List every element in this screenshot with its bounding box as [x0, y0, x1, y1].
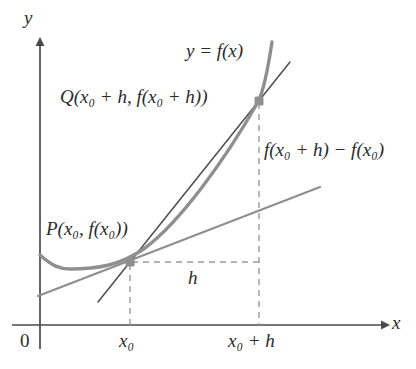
point-marker-p	[126, 258, 135, 267]
axes-group	[12, 37, 390, 349]
point-p-label: P(x₀, f(x₀))	[46, 219, 128, 238]
function-curve-label: y = f(x)	[186, 41, 243, 60]
origin-label: 0	[20, 331, 30, 350]
derivative-secant-tangent-figure: y x 0 y = f(x) Q(x₀ + h, f(x₀ + h)) P(x₀…	[0, 0, 416, 369]
run-label: h	[188, 268, 198, 287]
tangent-line	[38, 187, 320, 296]
y-axis-label: y	[24, 8, 32, 27]
x-tick-label-x0: x₀	[119, 331, 134, 350]
x-axis-arrowhead	[381, 321, 390, 330]
x-tick-label-x0-plus-h: x₀ + h	[228, 331, 275, 350]
x-axis-label: x	[392, 313, 400, 332]
rise-label: f(x₀ + h) − f(x₀)	[264, 140, 384, 159]
point-q-label: Q(x₀ + h, f(x₀ + h))	[60, 87, 208, 106]
guides-group	[130, 103, 259, 325]
point-marker-q	[255, 97, 264, 106]
y-axis-arrowhead	[36, 37, 45, 46]
